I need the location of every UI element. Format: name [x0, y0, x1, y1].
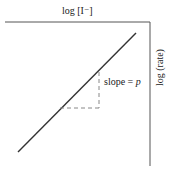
log-rate-line [18, 33, 136, 152]
x-axis-label: log [I⁻] [62, 6, 93, 16]
slope-label: slope = p [104, 77, 141, 87]
slope-label-text: slope = [104, 76, 136, 87]
y-axis-label: log (rate) [155, 49, 165, 86]
diagram-canvas [0, 0, 172, 170]
slope-variable: p [136, 76, 141, 87]
